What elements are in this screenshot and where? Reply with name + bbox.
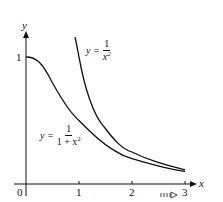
- direction-arrow-icon: [0, 0, 223, 202]
